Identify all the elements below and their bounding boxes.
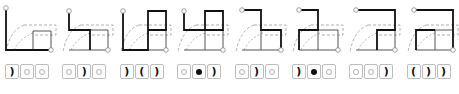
tile-paren-left: ( (135, 64, 149, 79)
tile-ring (265, 64, 279, 79)
path-diagram (57, 0, 114, 60)
dashed-guide (121, 25, 171, 52)
start-endpoint-icon (182, 9, 187, 14)
end-endpoint-icon (278, 48, 283, 53)
path-diagram (172, 0, 229, 60)
paren-right-icon: ) (154, 66, 159, 77)
paren-right-icon: ) (212, 66, 217, 77)
grid-box (242, 30, 281, 50)
start-endpoint-icon (67, 9, 72, 14)
panel-7: ) (344, 0, 401, 94)
dashed-arc (358, 33, 377, 50)
panel-3: )() (115, 0, 172, 94)
path-diagram (402, 0, 459, 60)
tile-paren-right: ) (150, 64, 164, 79)
start-endpoint-icon (4, 6, 9, 11)
tile-ring (35, 64, 49, 79)
ring-icon (368, 69, 374, 75)
tile-ring (235, 64, 249, 79)
tile-paren-right: ) (379, 64, 393, 79)
tile-row: ) (177, 64, 221, 79)
ring-icon (181, 69, 187, 75)
panel-4: ) (172, 0, 229, 94)
panel-8: ()) (402, 0, 459, 94)
tile-ring (177, 64, 191, 79)
dashed-guide (350, 25, 400, 52)
end-endpoint-icon (163, 48, 168, 53)
path-diagram (0, 0, 57, 60)
dashed-guide (178, 25, 228, 52)
tile-row: ) (5, 64, 49, 79)
main-path (356, 10, 395, 50)
ring-icon (239, 69, 245, 75)
main-path (184, 11, 223, 30)
dot-icon (311, 69, 317, 75)
start-endpoint-icon (354, 8, 359, 13)
dashed-arc (416, 33, 435, 50)
ring-icon (96, 69, 102, 75)
tile-row: )() (120, 64, 164, 79)
paren-right-icon: ) (296, 66, 301, 77)
panel-6: ) (287, 0, 344, 94)
tile-ring (62, 64, 76, 79)
tile-ring (364, 64, 378, 79)
grid-box (184, 30, 223, 50)
grid-box (299, 30, 338, 50)
tile-ring (322, 64, 336, 79)
panel-2: ) (57, 0, 114, 94)
tile-paren-right: ) (250, 64, 264, 79)
dashed-arc (129, 33, 148, 50)
start-endpoint-icon (120, 9, 125, 14)
dashed-guide (63, 25, 113, 52)
path-diagram (115, 0, 172, 60)
dashed-arc (186, 33, 205, 50)
paren-left-icon: ( (139, 66, 144, 77)
panel-5: ) (230, 0, 287, 94)
tile-row: ) (235, 64, 279, 79)
tile-paren-right: ) (292, 64, 306, 79)
tile-ring (20, 64, 34, 79)
end-endpoint-icon (49, 48, 54, 53)
end-endpoint-icon (393, 48, 398, 53)
tile-paren-right: ) (120, 64, 134, 79)
main-path (6, 8, 51, 50)
dashed-arc (71, 33, 90, 50)
tile-dot (307, 64, 321, 79)
figure-strip: )))()))))()) (0, 0, 459, 94)
end-endpoint-icon (336, 48, 341, 53)
main-path (299, 10, 318, 50)
panel-1: ) (0, 0, 57, 94)
paren-right-icon: ) (426, 66, 431, 77)
tile-paren-right: ) (437, 64, 451, 79)
tile-ring (92, 64, 106, 79)
grid-box (416, 30, 453, 50)
paren-right-icon: ) (82, 66, 87, 77)
paren-right-icon: ) (124, 66, 129, 77)
tile-paren-right: ) (5, 64, 19, 79)
end-endpoint-icon (106, 48, 111, 53)
dashed-arc (301, 33, 320, 50)
tile-row: ) (62, 64, 106, 79)
start-endpoint-icon (411, 8, 416, 13)
tile-paren-right: ) (422, 64, 436, 79)
dashed-guide (6, 25, 56, 52)
start-endpoint-icon (297, 8, 302, 13)
start-endpoint-icon (239, 8, 244, 13)
ring-icon (326, 69, 332, 75)
ring-icon (269, 69, 275, 75)
dashed-arc (14, 33, 33, 50)
main-path (123, 11, 166, 50)
tile-row: ) (292, 64, 336, 79)
paren-right-icon: ) (254, 66, 259, 77)
dot-icon (196, 69, 202, 75)
path-diagram (230, 0, 287, 60)
tile-row: ()) (407, 64, 451, 79)
tile-paren-right: ) (77, 64, 91, 79)
tile-row: ) (349, 64, 393, 79)
tile-paren-right: ) (207, 64, 221, 79)
path-diagram (344, 0, 401, 60)
grid-box (148, 30, 166, 50)
dashed-arc (244, 33, 263, 50)
paren-right-icon: ) (9, 66, 14, 77)
ring-icon (66, 69, 72, 75)
